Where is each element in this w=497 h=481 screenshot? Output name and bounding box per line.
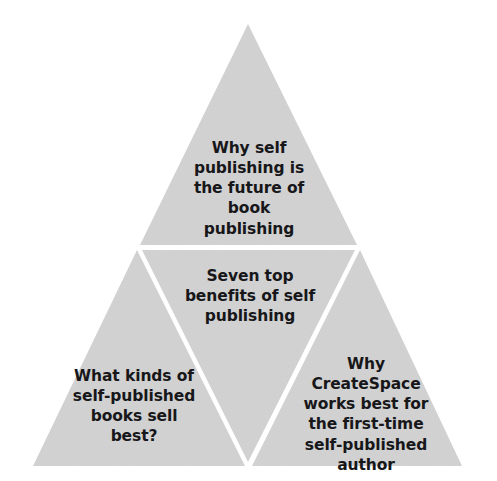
pyramid-diagram: Why self publishing is the future of boo… [0,0,497,481]
pyramid-shape-group [0,0,497,481]
pyramid-segment-top [140,24,357,245]
